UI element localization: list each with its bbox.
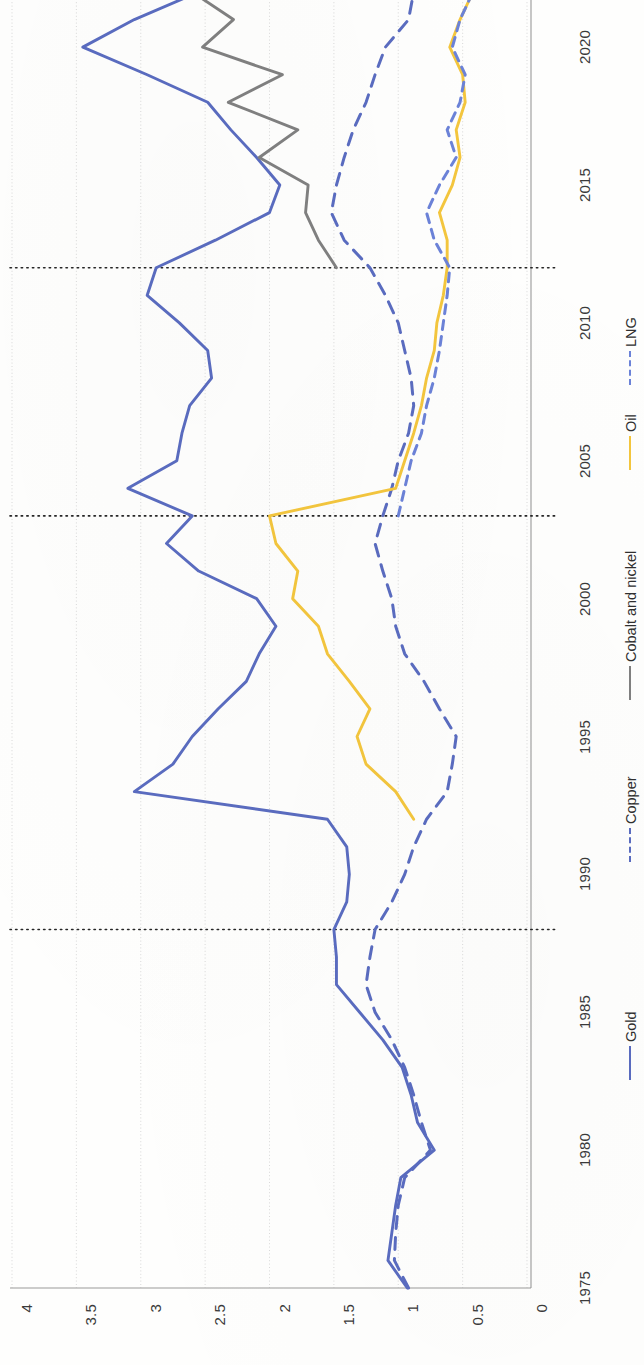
year-tick-2020: 2020 <box>576 30 593 64</box>
year-tick-1980: 1980 <box>576 1133 593 1167</box>
legend-label: Copper <box>623 776 639 824</box>
value-tick-2: 2 <box>276 1304 293 1313</box>
legend-entry-lng[interactable]: LNG <box>622 317 639 385</box>
legend-swatch-solid-line-icon <box>629 436 631 470</box>
legend-label: Oil <box>623 414 639 432</box>
legend-swatch-solid-line-icon <box>629 666 631 700</box>
year-tick-1990: 1990 <box>576 857 593 891</box>
plot-area <box>0 0 644 1365</box>
value-tick-4: 4 <box>18 1304 35 1313</box>
legend-swatch-dashed-line-icon <box>629 351 631 385</box>
year-tick-1975: 1975 <box>576 1271 593 1305</box>
legend-label: LNG <box>623 317 639 347</box>
legend-swatch-dashed-line-icon <box>629 828 631 862</box>
year-tick-2005: 2005 <box>576 444 593 478</box>
series-line-oil <box>270 0 473 819</box>
legend-entry-cobalt-and-nickel[interactable]: Cobalt and nickel <box>622 551 639 700</box>
chart-root: 43.532.521.510.50 1975198019851990199520… <box>0 0 644 1365</box>
legend-entry-copper[interactable]: Copper <box>622 776 639 862</box>
year-tick-1995: 1995 <box>576 719 593 753</box>
legend-entry-gold[interactable]: Gold <box>622 1011 639 1080</box>
series-line-gold <box>83 0 434 1288</box>
year-tick-2015: 2015 <box>576 168 593 202</box>
legend-entry-oil[interactable]: Oil <box>622 414 639 470</box>
year-tick-1985: 1985 <box>576 995 593 1029</box>
value-tick-3-5: 3.5 <box>82 1304 99 1325</box>
chart-svg <box>0 0 644 1365</box>
value-tick-3: 3 <box>147 1304 164 1313</box>
value-tick-1-5: 1.5 <box>340 1304 357 1325</box>
year-tick-2010: 2010 <box>576 306 593 340</box>
year-tick-2000: 2000 <box>576 582 593 616</box>
legend-label: Gold <box>623 1011 639 1042</box>
legend-label: Cobalt and nickel <box>623 551 639 662</box>
series-line-copper <box>331 0 456 1288</box>
legend-swatch-solid-line-icon <box>629 1046 631 1080</box>
value-tick-1: 1 <box>404 1304 421 1313</box>
value-tick-2-5: 2.5 <box>211 1304 228 1325</box>
series-line-cobalt-and-nickel <box>192 0 336 268</box>
value-tick-0: 0 <box>533 1304 550 1313</box>
value-tick-0-5: 0.5 <box>469 1304 486 1325</box>
